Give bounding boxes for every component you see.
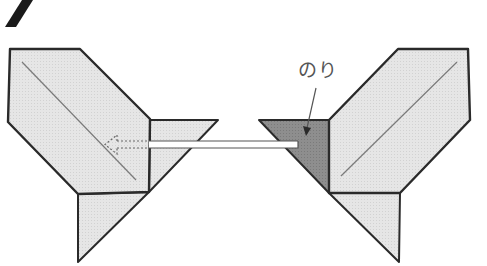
origami-diagram xyxy=(0,0,487,266)
left-bottom-triangle xyxy=(78,192,149,262)
right-piece xyxy=(259,49,470,262)
step-number-7-mark xyxy=(5,0,33,27)
arrow-shaft-solid xyxy=(149,141,298,148)
glue-label: のり xyxy=(298,55,338,82)
left-piece xyxy=(8,49,218,262)
right-bottom-triangle xyxy=(329,193,400,262)
glue-area-triangle xyxy=(259,120,329,193)
left-flap-triangle xyxy=(149,120,218,192)
